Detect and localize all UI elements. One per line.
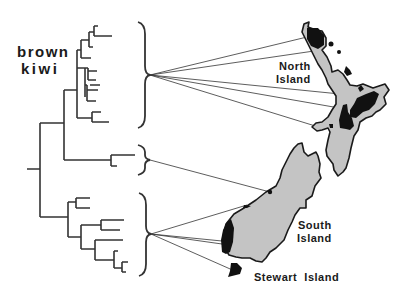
brace-south-clade xyxy=(139,193,151,276)
north-range-coromandel xyxy=(344,66,352,76)
label-stewart-island: Stewart Island xyxy=(254,271,339,283)
tree-south-clade xyxy=(40,198,128,272)
south-island-landmass xyxy=(224,143,321,262)
phylogeography-figure: brown kiwi xyxy=(0,0,409,296)
tree-upper-lineage xyxy=(40,90,64,160)
south-island-map xyxy=(221,143,321,262)
link-central xyxy=(150,160,270,192)
link-south-2 xyxy=(151,234,222,241)
label-north: North xyxy=(279,60,311,72)
taxon-label-kiwi: kiwi xyxy=(21,60,59,77)
label-south-island: Island xyxy=(297,232,332,244)
tree-central-clade xyxy=(64,155,135,166)
north-range-islet-1 xyxy=(329,42,334,47)
taxon-label-brown: brown xyxy=(17,43,70,60)
label-south: South xyxy=(298,219,332,231)
stewart-island-map xyxy=(228,263,242,277)
south-range-nelson xyxy=(268,190,272,194)
tree-root xyxy=(27,123,40,217)
brace-north-clade xyxy=(138,22,150,128)
label-north-island: Island xyxy=(276,73,311,85)
tree-north-clade xyxy=(64,26,112,122)
north-range-islet-2 xyxy=(337,50,341,54)
link-north-4 xyxy=(150,75,345,109)
brace-central-clade xyxy=(138,145,150,175)
